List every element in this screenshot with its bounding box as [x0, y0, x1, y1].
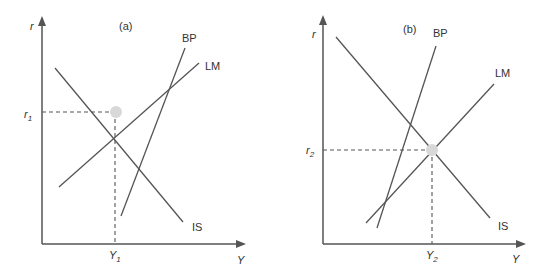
is-curve [336, 37, 490, 218]
lm-curve [59, 63, 199, 187]
panel-b: (b) r Y BP LM IS r2 Y2 [306, 17, 524, 265]
panel-a: (a) r Y BP LM IS r1 Y1 [24, 18, 245, 266]
lm-label: LM [495, 67, 510, 79]
bp-curve [377, 46, 436, 228]
r1-label: r1 [24, 108, 32, 123]
r2-label: r2 [306, 144, 315, 159]
x-axis-label: Y [512, 253, 520, 265]
equilibrium-point [110, 106, 122, 118]
equilibrium-point [426, 144, 438, 156]
is-curve [55, 68, 183, 222]
x-axis-label: Y [237, 254, 245, 266]
y-axis-label: r [30, 20, 35, 32]
y-axis-label: r [312, 28, 317, 40]
lm-label: LM [205, 60, 220, 72]
bp-label: BP [433, 27, 448, 39]
is-label: IS [498, 220, 508, 232]
bp-curve [121, 48, 185, 216]
panel-label: (b) [403, 23, 416, 35]
is-label: IS [192, 221, 202, 233]
y1-label: Y1 [109, 249, 121, 264]
y2-label: Y2 [426, 249, 438, 264]
is-lm-bp-diagram: (a) r Y BP LM IS r1 Y1 (b) r Y BP LM IS … [0, 0, 546, 279]
panel-label: (a) [119, 20, 132, 32]
bp-label: BP [182, 32, 197, 44]
